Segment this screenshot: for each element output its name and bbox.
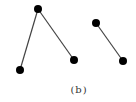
- edge-A-C: [38, 9, 74, 60]
- node-E: [119, 57, 127, 65]
- node-A: [34, 5, 42, 13]
- edge-A-B: [20, 9, 38, 70]
- right-pair: [92, 19, 127, 65]
- node-B: [16, 66, 24, 74]
- figure-caption: (b): [0, 84, 136, 95]
- node-D: [92, 19, 100, 27]
- left-tree: [16, 5, 78, 74]
- edge-D-E: [96, 23, 123, 61]
- node-C: [70, 56, 78, 64]
